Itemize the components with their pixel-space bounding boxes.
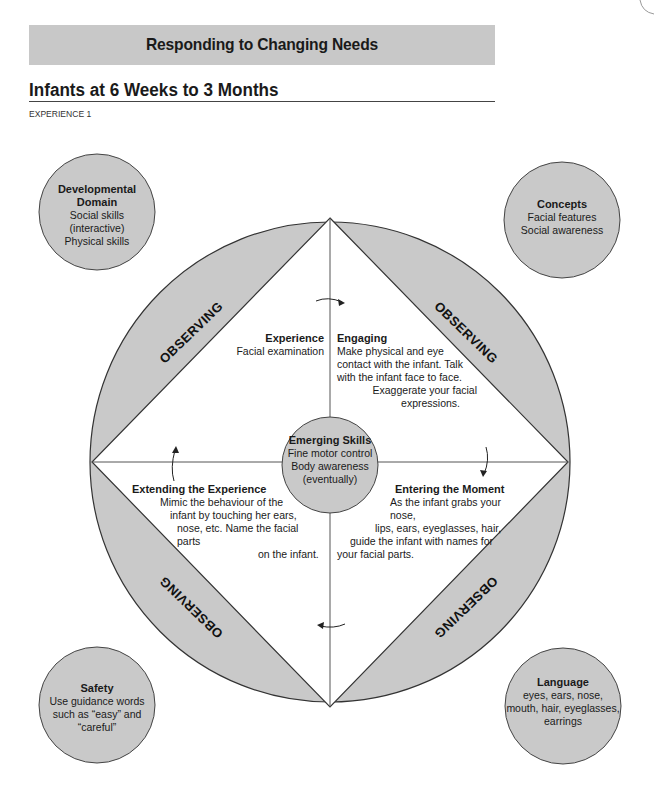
emerging-skills-text: Emerging Skills Fine motor control Body … bbox=[280, 434, 380, 486]
engaging-text: Engaging Make physical and eye contact w… bbox=[337, 332, 497, 410]
safety-text: Safety Use guidance words such as “easy”… bbox=[42, 682, 152, 734]
entering-text: Entering the Moment As the infant grabs … bbox=[337, 483, 527, 561]
extending-text: Extending the Experience Mimic the behav… bbox=[132, 483, 322, 561]
page-curl bbox=[640, 0, 654, 14]
language-text: Language eyes, ears, nose, mouth, hair, … bbox=[503, 676, 623, 728]
developmental-domain-text: Developmental Domain Social skills (inte… bbox=[47, 183, 147, 248]
experience-text: Experience Facial examination bbox=[220, 332, 324, 358]
concepts-text: Concepts Facial features Social awarenes… bbox=[507, 198, 617, 237]
